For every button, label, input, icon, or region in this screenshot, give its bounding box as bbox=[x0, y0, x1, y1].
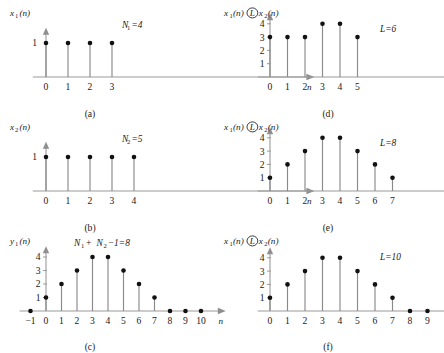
x-tick-label: 0 bbox=[268, 315, 273, 326]
svg-text:x: x bbox=[258, 122, 264, 132]
y-tick-label: 1 bbox=[260, 292, 265, 303]
stem-marker bbox=[152, 295, 157, 300]
stem-marker bbox=[320, 136, 325, 141]
svg-text:(n): (n) bbox=[268, 8, 279, 18]
svg-text:(n): (n) bbox=[233, 236, 244, 246]
x-tick-label: 5 bbox=[355, 315, 360, 326]
x-tick-label: 0 bbox=[44, 81, 49, 92]
svg-text:1: 1 bbox=[127, 24, 130, 31]
x-tick-label: 3 bbox=[110, 81, 115, 92]
x-tick-label: 4 bbox=[338, 195, 343, 206]
y-tick-label: 4 bbox=[260, 252, 265, 263]
stem-marker bbox=[137, 282, 142, 287]
stem-marker bbox=[390, 295, 395, 300]
x-tick-label: 1 bbox=[66, 195, 71, 206]
y-tick-label: 3 bbox=[260, 32, 265, 43]
svg-text:(n): (n) bbox=[19, 236, 30, 246]
annotation-text: L=10 bbox=[379, 252, 401, 262]
x-tick-label: 6 bbox=[373, 315, 378, 326]
stem-marker bbox=[355, 269, 360, 274]
x-tick-label: 6 bbox=[137, 315, 142, 326]
svg-text:x: x bbox=[258, 236, 264, 246]
stem-marker bbox=[338, 256, 343, 261]
figure-stem-plot-grid: 10123x1(n)nN1=4(a)101234x2(n)nN2=5(b)123… bbox=[0, 0, 444, 353]
x-tick-label: 9 bbox=[183, 315, 188, 326]
x-tick-label: 7 bbox=[152, 315, 157, 326]
y-tick-label: 4 bbox=[36, 251, 41, 262]
stem-marker bbox=[285, 282, 290, 287]
stem-marker bbox=[183, 309, 188, 314]
stem-marker bbox=[320, 22, 325, 27]
panel-c: 1234−1012345678910y1(n)nN1 + N2 −1=8(c) bbox=[2, 232, 224, 353]
y-tick-label: 2 bbox=[260, 279, 265, 290]
panel-annotation: L=8 bbox=[379, 138, 397, 148]
x-tick-label: 0 bbox=[44, 195, 49, 206]
y-tick-label: 1 bbox=[36, 292, 41, 303]
x-tick-label: 1 bbox=[66, 81, 71, 92]
x-tick-label: 2 bbox=[303, 195, 308, 206]
y-axis-label: x1(n)Lx2(n) bbox=[223, 236, 279, 247]
y-axis-label: x2(n) bbox=[9, 122, 30, 133]
panel-e: 123401234567x1(n)Lx2(n)nL=8(e) bbox=[222, 118, 444, 234]
panel-d: 1234012345x1(n)Lx2(n)nL=6(d) bbox=[222, 4, 444, 120]
y-tick-label: 3 bbox=[260, 266, 265, 277]
x-tick-label: 5 bbox=[121, 315, 126, 326]
x-tick-label: 3 bbox=[320, 195, 325, 206]
y-axis-arrow-icon bbox=[43, 246, 49, 253]
x-tick-label: 10 bbox=[196, 315, 206, 326]
y-tick-label: 1 bbox=[32, 37, 37, 48]
stem-marker bbox=[110, 41, 115, 46]
svg-text:(n): (n) bbox=[268, 236, 279, 246]
svg-text:2: 2 bbox=[103, 242, 106, 249]
y-tick-label: 1 bbox=[260, 172, 265, 183]
panel-f: 12340123456789x1(n)Lx2(n)nL=10(f) bbox=[222, 232, 444, 353]
stem-marker bbox=[303, 149, 308, 154]
panel-b: 101234x2(n)nN2=5(b) bbox=[2, 118, 224, 234]
y-tick-label: 4 bbox=[260, 132, 265, 143]
svg-text:−1=8: −1=8 bbox=[108, 238, 130, 248]
stem-marker bbox=[106, 255, 111, 260]
svg-text:1: 1 bbox=[81, 242, 84, 249]
stem-marker bbox=[66, 155, 71, 160]
stem-plot-e: 123401234567x1(n)Lx2(n)nL=8(e) bbox=[222, 118, 444, 234]
stem-plot-a: 10123x1(n)nN1=4(a) bbox=[2, 4, 224, 120]
stem-marker bbox=[44, 41, 49, 46]
x-tick-label: 2 bbox=[303, 81, 308, 92]
x-tick-label: 1 bbox=[59, 315, 64, 326]
stem-marker bbox=[88, 41, 93, 46]
x-tick-label: 2 bbox=[303, 315, 308, 326]
panel-annotation: L=10 bbox=[379, 252, 401, 262]
svg-text:x: x bbox=[223, 122, 229, 132]
stem-marker bbox=[355, 149, 360, 154]
y-tick-label: 4 bbox=[260, 18, 265, 29]
x-tick-label: 6 bbox=[373, 195, 378, 206]
y-axis-label: x1(n) bbox=[9, 8, 30, 19]
x-tick-label: 3 bbox=[320, 81, 325, 92]
y-axis-arrow-icon bbox=[43, 28, 49, 35]
panel-annotation: L=6 bbox=[379, 24, 397, 34]
x-tick-label: 7 bbox=[390, 315, 395, 326]
svg-text:1: 1 bbox=[15, 240, 18, 247]
x-tick-label: 3 bbox=[90, 315, 95, 326]
stem-marker bbox=[390, 175, 395, 180]
y-axis-arrow-icon bbox=[267, 247, 273, 254]
x-tick-label: 7 bbox=[390, 195, 395, 206]
x-tick-label: 3 bbox=[110, 195, 115, 206]
x-tick-label: 2 bbox=[88, 81, 93, 92]
svg-text:2: 2 bbox=[15, 126, 18, 133]
panel-annotation: N1 + N2 −1=8 bbox=[73, 238, 130, 249]
svg-text:=5: =5 bbox=[131, 134, 142, 144]
stem-marker bbox=[303, 269, 308, 274]
stem-marker bbox=[121, 268, 126, 273]
x-tick-label: 1 bbox=[285, 195, 290, 206]
stem-marker bbox=[320, 256, 325, 261]
stem-marker bbox=[199, 309, 204, 314]
svg-text:(n): (n) bbox=[19, 122, 30, 132]
x-tick-label: −1 bbox=[25, 315, 35, 326]
stem-marker bbox=[285, 162, 290, 167]
y-tick-label: 2 bbox=[36, 278, 41, 289]
stem-marker bbox=[338, 136, 343, 141]
panel-annotation: N1=4 bbox=[121, 20, 143, 31]
y-tick-label: 1 bbox=[260, 58, 265, 69]
x-tick-label: 0 bbox=[44, 315, 49, 326]
